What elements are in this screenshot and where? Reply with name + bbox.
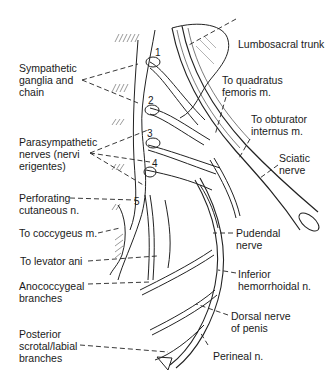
label-pudendal-nerve: Pudendal nerve	[236, 227, 280, 251]
label-to-quadratus-femoris: To quadratus femoris m.	[222, 74, 283, 98]
vertebral-level-1: 1	[155, 48, 161, 58]
vertebral-level-2: 2	[148, 96, 154, 106]
vertebral-level-4: 4	[152, 159, 158, 169]
vertebral-level-5: 5	[134, 197, 140, 207]
label-posterior-scrotal-labial: Posterior scrotal/labial branches	[19, 328, 77, 364]
label-sympathetic-ganglia: Sympathetic ganglia and chain	[19, 62, 77, 98]
label-to-coccygeus: To coccygeus m.	[19, 227, 97, 239]
label-dorsal-nerve-penis: Dorsal nerve of penis	[231, 310, 291, 334]
label-to-obturator-internus: To obturator internus m.	[251, 113, 307, 137]
label-parasympathetic-nerves: Parasympathetic nerves (nervi erigentes)	[19, 136, 97, 172]
label-anococcygeal-branches: Anococcygeal branches	[19, 280, 84, 304]
label-sciatic-nerve: Sciatic nerve	[279, 152, 310, 176]
label-lumbosacral-trunk: Lumbosacral trunk	[238, 38, 324, 50]
vertebral-level-3: 3	[147, 129, 153, 139]
label-perforating-cutaneous: Perforating cutaneous n.	[19, 192, 79, 216]
label-perineal-nerve: Perineal n.	[213, 350, 263, 362]
nerve-diagram: 1 2 3 4 5 Sympathetic ganglia and chain …	[0, 0, 336, 379]
label-to-levator-ani: To levator ani	[20, 255, 82, 267]
label-inferior-hemorrhoidal: Inferior hemorrhoidal n.	[238, 268, 311, 292]
